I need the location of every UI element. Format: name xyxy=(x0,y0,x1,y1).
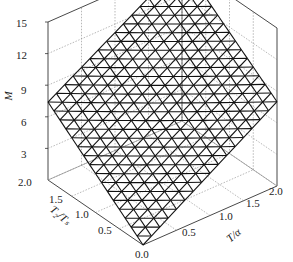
origin-tick: 0.0 xyxy=(135,248,149,260)
chart-root: 15 12 9 6 3 2.0 1.5 1.0 0.5 0.0 0.5 1.0 … xyxy=(0,0,293,262)
z-tick-12: 12 xyxy=(16,49,27,61)
x-axis-label: T₂/Tₛ xyxy=(48,203,74,228)
x-tick-2-0: 2.0 xyxy=(18,176,32,188)
z-tick-15: 15 xyxy=(16,17,28,29)
y-tick-1-0: 1.0 xyxy=(219,210,233,222)
surface-chart: 15 12 9 6 3 2.0 1.5 1.0 0.5 0.0 0.5 1.0 … xyxy=(0,0,293,262)
y-tick-2-0: 2.0 xyxy=(269,185,283,197)
x-tick-1-0: 1.0 xyxy=(75,208,89,220)
y-tick-0-5: 0.5 xyxy=(182,226,196,238)
z-axis-label: M xyxy=(2,91,14,102)
y-tick-1-5: 1.5 xyxy=(246,197,260,209)
x-tick-0-5: 0.5 xyxy=(98,224,112,236)
z-tick-9: 9 xyxy=(21,84,27,96)
z-tick-3: 3 xyxy=(21,148,27,160)
y-axis-label: T/α xyxy=(224,225,243,244)
z-tick-6: 6 xyxy=(21,116,27,128)
